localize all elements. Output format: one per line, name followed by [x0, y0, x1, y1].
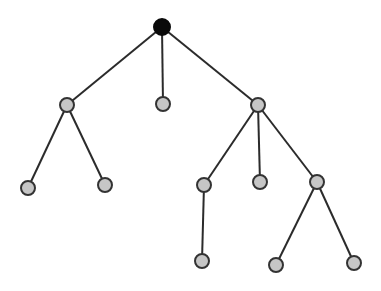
tree-diagram: [0, 0, 381, 291]
tree-node-c3: [310, 175, 324, 189]
tree-node-b: [156, 97, 170, 111]
edge-c3-c3b: [317, 182, 354, 263]
edge-layer: [28, 27, 354, 265]
edge-c-c1: [204, 105, 258, 185]
tree-node-c3a: [269, 258, 283, 272]
tree-node-a1: [21, 181, 35, 195]
edge-c1-c1a: [202, 185, 204, 261]
tree-node-c1: [197, 178, 211, 192]
tree-canvas: [0, 0, 381, 291]
tree-node-a: [60, 98, 74, 112]
tree-node-a2: [98, 178, 112, 192]
root-node: [154, 19, 170, 35]
edge-a-a2: [67, 105, 105, 185]
node-layer: [21, 19, 361, 272]
tree-node-c1a: [195, 254, 209, 268]
tree-node-c2: [253, 175, 267, 189]
tree-node-c3b: [347, 256, 361, 270]
edge-root-b: [162, 27, 163, 104]
edge-root-a: [67, 27, 162, 105]
edge-root-c: [162, 27, 258, 105]
edge-c3-c3a: [276, 182, 317, 265]
edge-a-a1: [28, 105, 67, 188]
edge-c-c3: [258, 105, 317, 182]
edge-c-c2: [258, 105, 260, 182]
tree-node-c: [251, 98, 265, 112]
